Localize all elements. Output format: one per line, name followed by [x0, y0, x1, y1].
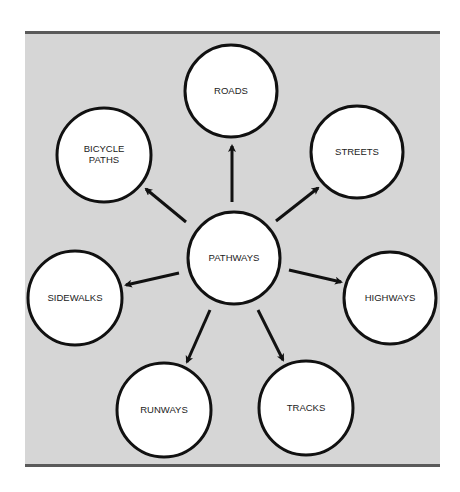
arrow-to-streets [276, 188, 318, 221]
node-bicycle-paths: BICYCLEPATHS [57, 108, 151, 202]
node-streets: STREETS [311, 106, 403, 198]
arrow-to-tracks [258, 310, 283, 360]
node-sidewalks-label: SIDEWALKS [47, 292, 102, 303]
arrow-to-bicycle-paths [146, 189, 186, 222]
node-sidewalks: SIDEWALKS [28, 251, 122, 345]
node-highways: HIGHWAYS [344, 252, 436, 344]
center-node-pathways: PATHWAYS [188, 212, 280, 304]
node-tracks-label: TRACKS [287, 402, 326, 413]
center-node-label: PATHWAYS [209, 252, 260, 263]
node-streets-label: STREETS [335, 146, 379, 157]
node-highways-label: HIGHWAYS [365, 292, 416, 303]
node-bicycle-paths-label: BICYCLE [84, 143, 125, 154]
node-roads: ROADS [185, 45, 277, 137]
node-bicycle-paths-label: PATHS [89, 154, 119, 165]
node-roads-label: ROADS [214, 85, 248, 96]
node-tracks: TRACKS [259, 361, 353, 455]
arrow-to-runways [187, 310, 210, 362]
pathways-diagram: ROADSSTREETSHIGHWAYSTRACKSRUNWAYSSIDEWAL… [0, 0, 460, 492]
arrow-to-sidewalks [126, 273, 179, 285]
node-runways: RUNWAYS [117, 363, 211, 457]
center-node: PATHWAYS [188, 212, 280, 304]
arrow-to-highways [289, 270, 341, 282]
node-runways-label: RUNWAYS [140, 404, 188, 415]
